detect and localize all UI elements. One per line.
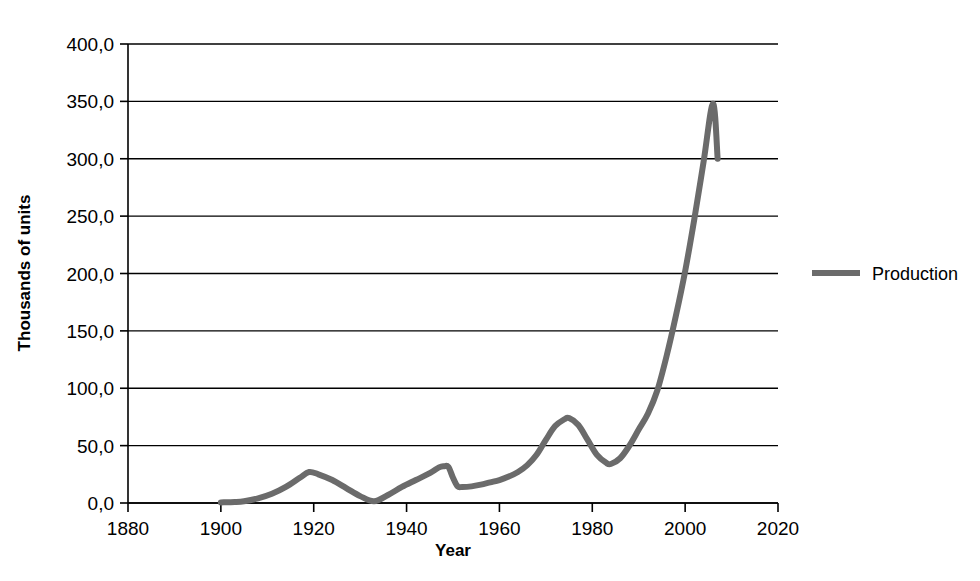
- y-tick-label: 400,0: [66, 34, 114, 55]
- y-tick-label: 300,0: [66, 149, 114, 170]
- chart-container: 0,050,0100,0150,0200,0250,0300,0350,0400…: [0, 0, 980, 581]
- x-tick-label: 1960: [478, 518, 520, 539]
- x-tick-label: 1880: [107, 518, 149, 539]
- y-tick-label: 50,0: [77, 436, 114, 457]
- x-axis-title: Year: [435, 541, 471, 560]
- y-tick-label: 350,0: [66, 91, 114, 112]
- y-tick-label: 100,0: [66, 378, 114, 399]
- x-tick-label: 1920: [293, 518, 335, 539]
- x-tick-label: 1900: [200, 518, 242, 539]
- y-tick-label: 150,0: [66, 321, 114, 342]
- y-tick-label: 200,0: [66, 264, 114, 285]
- y-axis-title: Thousands of units: [15, 195, 34, 352]
- x-tick-label: 1940: [385, 518, 427, 539]
- chart-background: [0, 0, 980, 581]
- x-tick-label: 1980: [571, 518, 613, 539]
- legend-label: Production: [872, 264, 958, 284]
- x-tick-label: 2000: [664, 518, 706, 539]
- line-chart: 0,050,0100,0150,0200,0250,0300,0350,0400…: [0, 0, 980, 581]
- y-tick-label: 0,0: [88, 493, 114, 514]
- y-tick-label: 250,0: [66, 206, 114, 227]
- x-tick-label: 2020: [757, 518, 799, 539]
